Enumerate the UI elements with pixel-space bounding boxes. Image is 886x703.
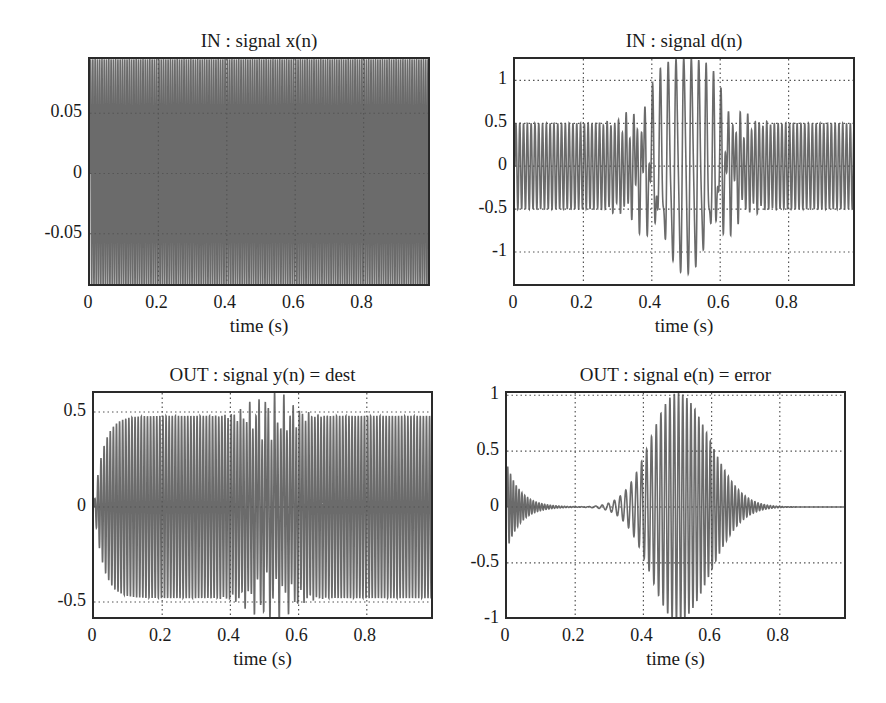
y-tick-label: -0.5 <box>439 550 499 571</box>
x-tick-label: 0.6 <box>698 625 721 646</box>
y-tick-label: 0.5 <box>26 400 86 421</box>
plot-area <box>92 391 433 619</box>
x-tick-label: 0.2 <box>145 292 168 313</box>
x-tick-label: 0 <box>88 625 97 646</box>
x-tick-label: 0.2 <box>570 292 593 313</box>
y-tick-label: 0.5 <box>439 439 499 460</box>
x-tick-label: 0 <box>501 625 510 646</box>
y-tick-label: 0 <box>26 495 86 516</box>
x-axis-label: time (s) <box>655 315 714 337</box>
y-tick-label: 0.5 <box>447 111 507 132</box>
y-tick-label: -1 <box>439 606 499 627</box>
chart-title: IN : signal x(n) <box>201 30 318 52</box>
x-tick-label: 0.6 <box>282 292 305 313</box>
y-tick-label: -0.5 <box>26 590 86 611</box>
plot-svg <box>94 393 433 619</box>
y-tick-label: 0 <box>22 161 82 182</box>
x-axis-label: time (s) <box>230 315 289 337</box>
x-tick-label: 0.4 <box>214 292 237 313</box>
x-tick-label: 0.2 <box>562 625 585 646</box>
y-tick-label: 1 <box>439 383 499 404</box>
y-tick-label: -0.5 <box>447 197 507 218</box>
y-tick-label: 0 <box>439 495 499 516</box>
plot-svg <box>515 59 855 286</box>
x-tick-label: 0.2 <box>149 625 172 646</box>
x-tick-label: 0 <box>84 292 93 313</box>
plot-area <box>505 391 846 619</box>
x-tick-label: 0.4 <box>639 292 662 313</box>
y-tick-label: -1 <box>447 239 507 260</box>
plot-svg <box>90 59 430 286</box>
chart-title: OUT : signal e(n) = error <box>580 364 771 386</box>
plot-svg <box>507 393 846 619</box>
y-tick-label: 1 <box>447 68 507 89</box>
plot-area <box>88 57 430 286</box>
x-tick-label: 0.8 <box>350 292 373 313</box>
y-tick-label: -0.05 <box>22 221 82 242</box>
x-tick-label: 0.4 <box>630 625 653 646</box>
x-tick-label: 0.8 <box>775 292 798 313</box>
x-tick-label: 0 <box>509 292 518 313</box>
y-tick-label: 0 <box>447 154 507 175</box>
x-tick-label: 0.8 <box>354 625 377 646</box>
signal-trace <box>90 59 430 286</box>
x-tick-label: 0.6 <box>707 292 730 313</box>
x-tick-label: 0.6 <box>285 625 308 646</box>
y-tick-label: 0.05 <box>22 101 82 122</box>
chart-title: OUT : signal y(n) = dest <box>169 364 355 386</box>
x-tick-label: 0.8 <box>767 625 790 646</box>
x-tick-label: 0.4 <box>217 625 240 646</box>
plot-area <box>513 57 855 286</box>
signal-trace <box>94 393 433 619</box>
chart-title: IN : signal d(n) <box>626 30 743 52</box>
signal-trace <box>507 393 846 619</box>
x-axis-label: time (s) <box>646 648 705 670</box>
x-axis-label: time (s) <box>233 648 292 670</box>
